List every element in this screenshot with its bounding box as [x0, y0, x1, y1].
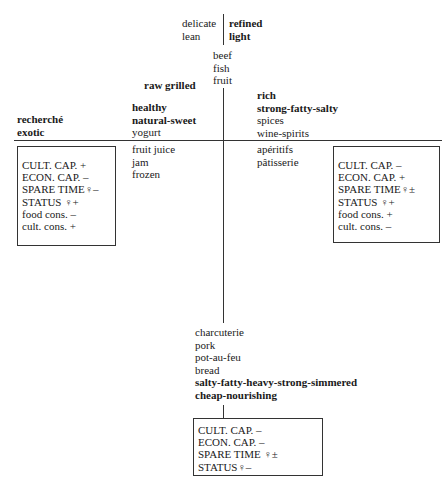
- upper-right-terms: rich strong-fatty-salty spices wine-spir…: [257, 89, 338, 139]
- top-left-terms: delicate lean: [182, 17, 216, 42]
- term-light: light: [229, 30, 262, 43]
- vertical-axis-main-segment: [223, 88, 224, 323]
- term-bread: bread: [195, 364, 357, 377]
- term-fish: fish: [213, 62, 232, 75]
- term-pork: pork: [195, 339, 357, 352]
- term-beef: beef: [213, 49, 232, 62]
- upper-left-far-terms: recherché exotic: [17, 113, 63, 138]
- box-row: cult. cons. –: [338, 220, 439, 232]
- term-recherche: recherché: [17, 113, 63, 126]
- term-aperitifs: apéritifs: [257, 143, 299, 156]
- term-cheap-nourishing: cheap-nourishing: [195, 389, 357, 402]
- box-row: ECON. CAP. +: [338, 171, 439, 183]
- box-row: CULT. CAP. –: [338, 159, 439, 171]
- term-charcuterie: charcuterie: [195, 326, 357, 339]
- term-salty-fatty-heavy-strong-simmered: salty-fatty-heavy-strong-simmered: [195, 376, 357, 389]
- box-row: cult. cons. +: [22, 220, 115, 232]
- box-row: food cons. +: [338, 208, 439, 220]
- term-fruit-juice: fruit juice: [132, 143, 175, 156]
- box-row: CULT. CAP. –: [198, 424, 322, 436]
- box-row: STATUS ♀+: [22, 196, 115, 208]
- term-exotic: exotic: [17, 126, 63, 139]
- top-right-terms: refined light: [229, 17, 262, 42]
- term-healthy: healthy: [132, 101, 196, 114]
- term-wine-spirits: wine-spirits: [257, 127, 338, 140]
- box-row: STATUS♀–: [198, 461, 322, 473]
- term-spices: spices: [257, 114, 338, 127]
- term-refined: refined: [229, 17, 262, 30]
- box-row: SPARE TIME♀–: [22, 183, 115, 195]
- right-capital-box: CULT. CAP. – ECON. CAP. + SPARE TIME♀± S…: [333, 146, 440, 243]
- box-row: SPARE TIME ♀±: [198, 448, 322, 460]
- term-raw-grilled: raw grilled: [144, 79, 196, 92]
- bottom-terms: charcuterie pork pot-au-feu bread salty-…: [195, 326, 357, 401]
- term-rich: rich: [257, 89, 338, 102]
- term-fruit: fruit: [213, 74, 232, 87]
- term-natural-sweet: natural-sweet: [132, 114, 196, 127]
- lower-right-terms: apéritifs pâtisserie: [257, 143, 299, 168]
- term-jam: jam: [132, 156, 175, 169]
- box-row: STATUS ♀+: [338, 196, 439, 208]
- box-row: food cons. –: [22, 208, 115, 220]
- box-row: CULT. CAP. +: [22, 159, 115, 171]
- lower-left-terms: fruit juice jam frozen: [132, 143, 175, 181]
- vertical-axis-bottom-segment: [223, 405, 224, 418]
- horizontal-axis: [14, 140, 442, 141]
- term-pot-au-feu: pot-au-feu: [195, 351, 357, 364]
- vertical-axis-top-segment: [223, 14, 224, 45]
- box-row: SPARE TIME♀±: [338, 183, 439, 195]
- term-strong-fatty-salty: strong-fatty-salty: [257, 102, 338, 115]
- term-patisserie: pâtisserie: [257, 156, 299, 169]
- top-center-terms: beef fish fruit: [213, 49, 232, 87]
- term-yogurt: yogurt: [132, 126, 196, 139]
- term-lean: lean: [182, 30, 216, 43]
- box-row: ECON. CAP. –: [198, 436, 322, 448]
- upper-left-near-terms: healthy natural-sweet yogurt: [132, 101, 196, 139]
- term-delicate: delicate: [182, 17, 216, 30]
- box-row: ECON. CAP. –: [22, 171, 115, 183]
- left-capital-box: CULT. CAP. + ECON. CAP. – SPARE TIME♀– S…: [17, 146, 116, 246]
- term-frozen: frozen: [132, 168, 175, 181]
- bottom-capital-box: CULT. CAP. – ECON. CAP. – SPARE TIME ♀± …: [193, 418, 323, 476]
